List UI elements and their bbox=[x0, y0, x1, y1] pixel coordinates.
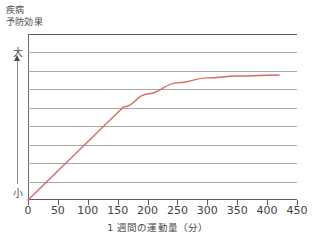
chart-figure: 疾病 予防効果 大 小 050100150200250300350400450 … bbox=[0, 0, 316, 238]
y-axis-label-line1: 疾病 bbox=[6, 4, 43, 16]
plot-area bbox=[28, 34, 297, 200]
up-arrow-icon bbox=[17, 60, 18, 184]
data-curve bbox=[28, 34, 297, 200]
x-axis-label: 1 週間の運動量（分） bbox=[0, 220, 316, 234]
y-axis-label-line2: 予防効果 bbox=[6, 16, 43, 28]
y-axis-magnitude-scale: 大 小 bbox=[8, 44, 28, 200]
x-axis-tick-label: 450 bbox=[277, 204, 316, 217]
series-line-disease-prevention bbox=[28, 75, 279, 200]
x-axis-tick-labels: 050100150200250300350400450 bbox=[0, 204, 316, 220]
y-axis-low-label: 小 bbox=[8, 185, 28, 200]
y-axis-label: 疾病 予防効果 bbox=[6, 4, 43, 28]
